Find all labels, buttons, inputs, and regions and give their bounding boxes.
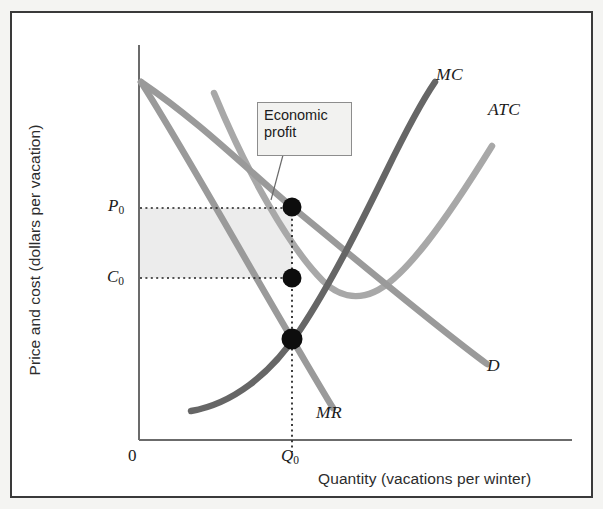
x-tick-q0-subscript: 0 bbox=[293, 454, 299, 466]
x-tick-label-q0: Q0 bbox=[281, 446, 299, 466]
curve-label-mr: MR bbox=[316, 402, 342, 423]
marker-mr-mc-point bbox=[282, 329, 303, 350]
x-axis-title: Quantity (vacations per winter) bbox=[318, 470, 531, 488]
x-tick-q0-base: Q bbox=[281, 446, 293, 465]
marker-price-point bbox=[283, 198, 302, 217]
y-tick-c0-subscript: 0 bbox=[118, 275, 124, 287]
y-tick-c0-base: C bbox=[107, 267, 118, 286]
figure-root: Economic profit Price and cost (dollars … bbox=[0, 0, 603, 509]
axis-origin-label: 0 bbox=[128, 446, 137, 466]
economic-profit-region bbox=[140, 208, 292, 278]
curve-label-atc: ATC bbox=[488, 99, 520, 120]
economic-profit-callout: Economic profit bbox=[257, 102, 352, 156]
y-tick-label-p0: P0 bbox=[108, 196, 124, 216]
curve-label-mc: MC bbox=[436, 64, 463, 85]
plot-canvas bbox=[0, 0, 603, 509]
callout-line-2: profit bbox=[264, 124, 351, 141]
y-tick-p0-subscript: 0 bbox=[118, 204, 124, 216]
y-tick-label-c0: C0 bbox=[107, 267, 124, 287]
y-tick-p0-base: P bbox=[108, 196, 118, 215]
y-axis-title: Price and cost (dollars per vacation) bbox=[26, 110, 44, 390]
curve-label-d: D bbox=[487, 355, 500, 376]
callout-line-1: Economic bbox=[264, 107, 351, 124]
marker-cost-point bbox=[283, 269, 302, 288]
